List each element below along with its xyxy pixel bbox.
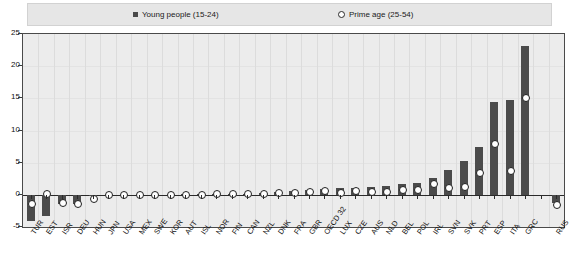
x-tick-mark — [294, 195, 295, 199]
legend-item-young-people[interactable]: Young people (15-24) — [133, 4, 219, 25]
grid-line-vertical — [394, 34, 395, 227]
point-MEX — [136, 191, 144, 199]
grid-line-horizontal — [23, 98, 564, 99]
y-tick-mark — [18, 97, 22, 98]
x-tick-mark — [510, 195, 511, 199]
y-tick-label: 10 — [0, 126, 20, 134]
x-tick-mark — [355, 195, 356, 199]
grid-line-vertical — [425, 34, 426, 227]
grid-line-vertical — [69, 34, 70, 227]
grid-line-vertical — [54, 34, 55, 227]
point-LUX — [337, 189, 345, 197]
x-tick-mark — [402, 195, 403, 199]
grid-line-vertical — [502, 34, 503, 227]
grid-line-vertical — [440, 34, 441, 227]
grid-line-vertical — [363, 34, 364, 227]
x-tick-mark — [31, 195, 32, 199]
grid-line-vertical — [116, 34, 117, 227]
point-NOR — [213, 190, 221, 198]
grid-line-vertical — [409, 34, 410, 227]
y-tick-mark — [18, 162, 22, 163]
x-tick-mark — [263, 195, 264, 199]
grid-line-vertical — [131, 34, 132, 227]
grid-line-vertical — [348, 34, 349, 227]
y-tick-mark — [18, 194, 22, 195]
x-tick-mark — [247, 195, 248, 199]
grid-line-vertical — [85, 34, 86, 227]
legend-label-young-people: Young people (15-24) — [142, 11, 219, 19]
grid-line-vertical — [270, 34, 271, 227]
filled-square-icon — [133, 12, 138, 17]
point-USA — [120, 191, 128, 199]
point-RUS — [553, 201, 561, 209]
x-tick-mark — [448, 195, 449, 199]
bar-ITA — [506, 100, 514, 195]
point-AUS — [368, 188, 376, 196]
x-tick-mark — [201, 195, 202, 199]
point-AUT — [182, 191, 190, 199]
x-tick-mark — [525, 195, 526, 199]
point-BEL — [399, 186, 407, 194]
x-tick-mark — [433, 195, 434, 199]
grid-line-vertical — [456, 34, 457, 227]
grid-line-vertical — [224, 34, 225, 227]
x-tick-mark — [556, 195, 557, 199]
x-tick-mark — [185, 195, 186, 199]
y-tick-label: 25 — [0, 29, 20, 37]
x-tick-mark — [278, 195, 279, 199]
y-tick-mark — [18, 130, 22, 131]
grid-line-vertical — [208, 34, 209, 227]
grid-line-vertical — [193, 34, 194, 227]
chart-root: Young people (15-24) Prime age (25-54) -… — [0, 0, 577, 270]
x-tick-mark — [154, 195, 155, 199]
y-tick-label: 15 — [0, 93, 20, 101]
grid-line-vertical — [147, 34, 148, 227]
grid-line-vertical — [301, 34, 302, 227]
point-SVK — [461, 183, 469, 191]
x-tick-mark — [386, 195, 387, 199]
point-DEU — [74, 200, 82, 208]
point-ITA — [507, 167, 515, 175]
point-ISR — [59, 199, 67, 207]
x-tick-mark — [123, 195, 124, 199]
grid-line-vertical — [178, 34, 179, 227]
grid-line-vertical — [255, 34, 256, 227]
point-TUR — [28, 200, 36, 208]
x-tick-mark — [170, 195, 171, 199]
legend-item-prime-age[interactable]: Prime age (25-54) — [338, 4, 413, 25]
y-tick-mark — [18, 226, 22, 227]
y-tick-label: 5 — [0, 158, 20, 166]
y-tick-mark — [18, 65, 22, 66]
point-FRA — [291, 189, 299, 197]
point-GBR — [306, 188, 314, 196]
y-tick-mark — [18, 33, 22, 34]
legend-label-prime-age: Prime age (25-54) — [349, 11, 413, 19]
grid-line-vertical — [549, 34, 550, 227]
point-JPN — [105, 191, 113, 199]
x-tick-mark — [494, 195, 495, 199]
point-FIN — [229, 190, 237, 198]
chart-legend: Young people (15-24) Prime age (25-54) — [27, 3, 552, 26]
grid-line-vertical — [518, 34, 519, 227]
x-tick-mark — [541, 195, 542, 199]
grid-line-horizontal — [23, 66, 564, 67]
x-tick-mark — [62, 195, 63, 199]
grid-line-vertical — [332, 34, 333, 227]
x-tick-mark — [371, 195, 372, 199]
grid-line-vertical — [162, 34, 163, 227]
bar-ESP — [490, 102, 498, 195]
point-IRL — [430, 180, 438, 188]
y-tick-label: 0 — [0, 190, 20, 198]
grid-line-horizontal — [23, 131, 564, 132]
point-NZL — [260, 190, 268, 198]
grid-line-vertical — [317, 34, 318, 227]
point-CAN — [244, 190, 252, 198]
open-circle-icon — [338, 11, 345, 18]
grid-line-vertical — [38, 34, 39, 227]
x-tick-mark — [340, 195, 341, 199]
x-tick-mark — [139, 195, 140, 199]
grid-line-vertical — [100, 34, 101, 227]
x-tick-mark — [309, 195, 310, 199]
grid-line-vertical — [471, 34, 472, 227]
grid-line-vertical — [286, 34, 287, 227]
